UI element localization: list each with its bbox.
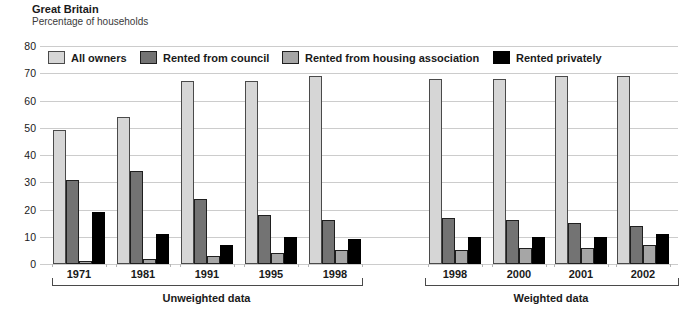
axis-tick [170, 264, 171, 267]
bar-all-owners-2000 [493, 79, 506, 264]
bar-rented-privately-1995 [284, 237, 297, 264]
y-tick-label-10: 10 [10, 231, 36, 243]
gridline-50 [40, 128, 678, 129]
gridline-60 [40, 101, 678, 102]
y-tick-label-60: 60 [10, 95, 36, 107]
axis-tick [298, 264, 299, 267]
bar-all-owners-1998 [309, 76, 322, 264]
legend-label-1: Rented from council [163, 52, 269, 64]
legend-label-0: All owners [71, 52, 127, 64]
legend-swatch-0 [48, 51, 65, 64]
bar-rented-from-housing-association-2001 [581, 248, 594, 264]
bar-rented-privately-1998 [348, 239, 361, 264]
y-tick-label-30: 30 [10, 176, 36, 188]
bar-rented-from-housing-association-2002 [643, 245, 656, 264]
bar-all-owners-1998 [429, 79, 442, 264]
bar-rented-privately-2001 [594, 237, 607, 264]
bar-rented-from-housing-association-1998 [335, 250, 348, 264]
axis-tick [482, 264, 483, 267]
section-bracket-1 [425, 278, 679, 286]
axis-tick [428, 264, 429, 267]
legend-item-3: Rented privately [493, 51, 602, 64]
bar-rented-from-housing-association-2000 [519, 248, 532, 264]
axis-tick [670, 264, 671, 267]
bar-rented-from-council-1998 [322, 220, 335, 264]
axis-tick [546, 264, 547, 267]
axis-tick [554, 264, 555, 267]
y-tick-label-50: 50 [10, 122, 36, 134]
bar-all-owners-1971 [53, 130, 66, 264]
gridline-70 [40, 73, 678, 74]
bar-rented-from-council-1998 [442, 218, 455, 264]
gridline-0 [40, 264, 678, 265]
bar-rented-from-council-2002 [630, 226, 643, 264]
legend-label-3: Rented privately [516, 52, 602, 64]
bar-rented-from-housing-association-1971 [79, 261, 92, 264]
y-tick-label-40: 40 [10, 149, 36, 161]
gridline-80 [40, 46, 678, 47]
axis-tick [362, 264, 363, 267]
bar-rented-from-council-1971 [66, 180, 79, 264]
bar-rented-privately-2002 [656, 234, 669, 264]
bar-rented-from-council-1981 [130, 171, 143, 264]
bar-rented-privately-1981 [156, 234, 169, 264]
section-label-0: Unweighted data [52, 292, 361, 304]
bar-all-owners-1981 [117, 117, 130, 264]
legend-swatch-3 [493, 51, 510, 64]
y-tick-label-0: 0 [10, 258, 36, 270]
bar-rented-from-council-2000 [506, 220, 519, 264]
bar-rented-privately-1998 [468, 237, 481, 264]
legend-label-2: Rented from housing association [305, 52, 479, 64]
legend-swatch-2 [282, 51, 299, 64]
axis-tick [616, 264, 617, 267]
axis-tick [106, 264, 107, 267]
bar-all-owners-2001 [555, 76, 568, 264]
bar-rented-from-housing-association-1991 [207, 256, 220, 264]
bar-rented-from-council-2001 [568, 223, 581, 264]
axis-tick [308, 264, 309, 267]
bar-rented-privately-2000 [532, 237, 545, 264]
bar-rented-from-housing-association-1981 [143, 259, 156, 264]
axis-tick [180, 264, 181, 267]
plot-area: 0102030405060708019711981199119951998Unw… [0, 0, 698, 313]
axis-tick [52, 264, 53, 267]
y-tick-label-80: 80 [10, 40, 36, 52]
bar-rented-from-council-1995 [258, 215, 271, 264]
axis-tick [608, 264, 609, 267]
bar-all-owners-2002 [617, 76, 630, 264]
bar-all-owners-1995 [245, 81, 258, 264]
gridline-40 [40, 155, 678, 156]
bar-rented-from-housing-association-1995 [271, 253, 284, 264]
legend-item-1: Rented from council [140, 51, 269, 64]
section-label-1: Weighted data [425, 292, 677, 304]
axis-tick [244, 264, 245, 267]
axis-tick [234, 264, 235, 267]
bar-rented-from-housing-association-1998 [455, 250, 468, 264]
y-tick-label-70: 70 [10, 67, 36, 79]
axis-tick [492, 264, 493, 267]
bar-rented-privately-1991 [220, 245, 233, 264]
section-bracket-0 [52, 278, 363, 286]
axis-tick [116, 264, 117, 267]
chart-canvas: Great Britain Percentage of households 0… [0, 0, 698, 313]
bar-rented-from-council-1991 [194, 199, 207, 264]
legend-item-0: All owners [48, 51, 127, 64]
legend-swatch-1 [140, 51, 157, 64]
bar-all-owners-1991 [181, 81, 194, 264]
bar-rented-privately-1971 [92, 212, 105, 264]
y-tick-label-20: 20 [10, 204, 36, 216]
legend-item-2: Rented from housing association [282, 51, 479, 64]
